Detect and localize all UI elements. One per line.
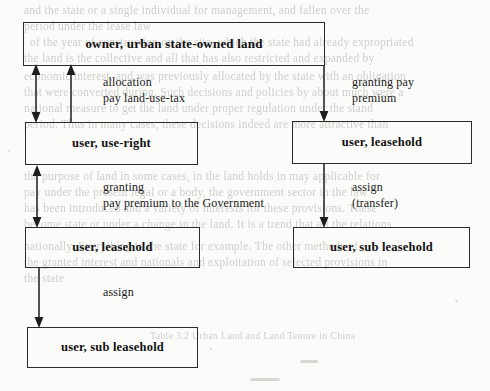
edge-label-allocation-line-2: pay land-use-tax: [103, 90, 185, 106]
edge-label-assign-line-1: assign: [103, 284, 134, 300]
node-user-sub-leasehold-right-label: user, sub leasehold: [330, 240, 433, 255]
node-user-sub-leasehold-left-label: user, sub leasehold: [61, 340, 164, 355]
connector-assign-down: [29, 268, 53, 328]
edge-label-granting-premium: granting pay premium: [352, 74, 414, 106]
node-user-sub-leasehold-right[interactable]: user, sub leasehold: [293, 227, 470, 268]
connector-granting-premium-down: [314, 66, 338, 122]
edge-label-allocation-line-1: allocation: [103, 74, 185, 90]
edge-label-granting-government: granting pay premium to the Government: [103, 179, 264, 211]
edge-label-granting-government-line-1: granting: [103, 179, 264, 195]
connector-assign-transfer-down: [314, 164, 338, 228]
edge-label-assign-transfer-line-1: assign: [352, 179, 398, 195]
edge-label-granting-government-line-2: pay premium to the Government: [103, 195, 264, 211]
edge-label-assign-transfer-line-2: (transfer): [352, 195, 398, 211]
edge-label-allocation: allocation pay land-use-tax: [103, 74, 185, 106]
node-user-leasehold-left[interactable]: user, leasehold: [25, 227, 200, 268]
edge-label-assign: assign: [103, 284, 134, 300]
edge-label-assign-transfer: assign (transfer): [352, 179, 398, 211]
node-user-sub-leasehold-left[interactable]: user, sub leasehold: [27, 327, 198, 368]
node-user-leasehold-left-label: user, leasehold: [72, 240, 152, 255]
edge-label-granting-premium-line-1: granting pay: [352, 74, 414, 90]
connector-allocation-bidirectional: [26, 64, 50, 124]
background-bleed-line: and the state or a single individual for…: [24, 4, 369, 16]
node-user-use-right[interactable]: user, use-right: [25, 122, 198, 165]
node-user-leasehold-right-label: user, leasehold: [342, 135, 422, 150]
connector-granting-government-bidirectional: [27, 165, 51, 228]
node-user-use-right-label: user, use-right: [72, 136, 151, 151]
scanned-page: and the state or a single individual for…: [0, 0, 490, 391]
edge-label-granting-premium-line-2: premium: [352, 90, 414, 106]
connector-allocation-up: [61, 64, 85, 124]
node-owner-label: owner, urban state-owned land: [85, 36, 262, 52]
node-owner[interactable]: owner, urban state-owned land: [23, 22, 325, 66]
node-user-leasehold-right[interactable]: user, leasehold: [292, 121, 472, 164]
